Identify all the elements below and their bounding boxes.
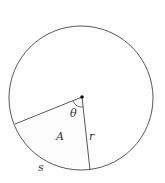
center-dot: [80, 95, 84, 99]
label-area: A: [55, 130, 64, 143]
sector-area: [15, 97, 90, 170]
label-radius: r: [89, 130, 95, 143]
sector-diagram: θ A r s: [0, 0, 165, 183]
label-theta: θ: [70, 107, 77, 120]
label-arc: s: [38, 161, 44, 174]
